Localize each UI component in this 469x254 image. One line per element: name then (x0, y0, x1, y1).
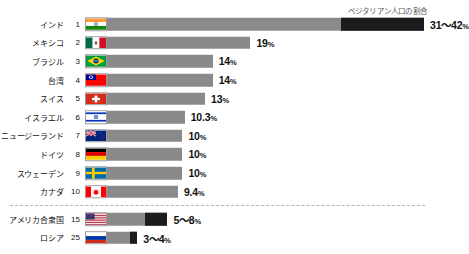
bar-value-number: 13 (211, 93, 222, 105)
country-rank: 8 (66, 150, 80, 159)
chart-row: アメリカ合衆国155〜8% (0, 210, 433, 229)
percent-sign: % (194, 217, 200, 226)
bar-value-label: 10% (188, 130, 206, 142)
country-label: スイス (0, 93, 64, 104)
chart-row: スイス513% (0, 89, 433, 108)
bar-value-number: 10 (188, 148, 199, 160)
bar-track (107, 37, 250, 50)
percent-sign: % (200, 133, 206, 142)
bar-fill (107, 148, 182, 161)
bar-track (107, 111, 185, 124)
country-label: 台湾 (0, 75, 64, 86)
country-label: ドイツ (0, 149, 64, 160)
country-rank: 7 (66, 131, 80, 140)
percent-sign: % (222, 96, 228, 105)
bar-range-highlight (145, 213, 168, 226)
bar-value-number: 14 (219, 74, 230, 86)
percent-sign: % (200, 170, 206, 179)
bar-value-label: 9.4% (184, 186, 204, 198)
percent-sign: % (230, 77, 236, 86)
country-label: メキシコ (0, 37, 64, 48)
chart-row: 台湾414% (0, 71, 433, 90)
flag-brazil-icon (85, 55, 107, 69)
flag-israel-icon (85, 111, 107, 125)
bar-fill (107, 92, 205, 105)
flag-india-icon (85, 18, 107, 32)
chart-row: ニュージーランド710% (0, 127, 433, 146)
country-rank: 1 (66, 20, 80, 29)
flag-switzerland-icon (85, 92, 107, 106)
chart-row: ドイツ810% (0, 145, 433, 164)
bar-value-label: 10.3% (191, 111, 217, 123)
bar-value-label: 14% (219, 55, 237, 67)
country-rank: 2 (66, 38, 80, 47)
country-rank: 9 (66, 169, 80, 178)
bar-value-number: 10.3 (191, 111, 211, 123)
percent-sign: % (164, 235, 170, 244)
bar-value-label: 3〜4% (143, 230, 171, 245)
bar-value-number: 9.4 (184, 186, 198, 198)
bar-fill (107, 130, 182, 143)
chart-row: ロシア253〜4% (0, 229, 433, 248)
bar-track (107, 167, 182, 180)
country-label: カナダ (0, 186, 64, 197)
country-label: インド (0, 19, 64, 30)
country-label: スウェーデン (0, 168, 64, 179)
flag-sweden-icon (85, 166, 107, 180)
bar-value-label: 14% (219, 74, 237, 86)
country-rank: 6 (66, 113, 80, 122)
bar-value-number: 10 (188, 167, 199, 179)
bar-value-label: 31〜42% (430, 17, 469, 32)
bar-value-label: 19% (256, 37, 274, 49)
bar-value-number: 10 (188, 130, 199, 142)
bar-track (107, 185, 178, 198)
bar-value-number: 5〜8 (173, 214, 194, 226)
percent-sign: % (198, 189, 204, 198)
bar-value-number: 19 (256, 37, 267, 49)
country-rank: 25 (66, 233, 80, 242)
flag-canada-icon (85, 185, 107, 199)
bar-fill (107, 167, 182, 180)
chart-row: ブラジル314% (0, 52, 433, 71)
country-rank: 10 (66, 187, 80, 196)
bar-track (107, 18, 424, 31)
percent-sign: % (200, 151, 206, 160)
section-divider (10, 205, 425, 206)
flag-mexico-icon (85, 36, 107, 50)
country-rank: 4 (66, 76, 80, 85)
country-label: アメリカ合衆国 (0, 214, 64, 225)
bar-value-label: 10% (188, 148, 206, 160)
bar-track (107, 74, 213, 87)
bar-track (107, 55, 213, 68)
bar-track (107, 232, 137, 245)
flag-russia-icon (85, 231, 107, 245)
flag-taiwan-icon (85, 73, 107, 87)
bar-value-label: 10% (188, 167, 206, 179)
chart-row: メキシコ219% (0, 34, 433, 53)
flag-germany-icon (85, 148, 107, 162)
bar-range-highlight (130, 232, 138, 245)
chart-rows: インド131〜42%メキシコ219%ブラジル314%台湾414%スイス513%イ… (0, 15, 433, 247)
bar-fill (107, 37, 250, 50)
percent-sign: % (230, 58, 236, 67)
chart-row: スウェーデン910% (0, 164, 433, 183)
country-label: イスラエル (0, 112, 64, 123)
flag-new-zealand-icon (85, 129, 107, 143)
flag-usa-icon (85, 212, 107, 226)
bar-range-highlight (341, 18, 424, 31)
percent-sign: % (210, 114, 216, 123)
chart-row: イスラエル610.3% (0, 108, 433, 127)
bar-fill (107, 55, 213, 68)
bar-fill (107, 185, 178, 198)
country-rank: 3 (66, 57, 80, 66)
bar-value-label: 5〜8% (173, 212, 201, 227)
percent-sign: % (462, 22, 468, 31)
chart-row: カナダ109.4% (0, 182, 433, 201)
country-label: ロシア (0, 232, 64, 243)
country-label: ブラジル (0, 56, 64, 67)
country-rank: 5 (66, 94, 80, 103)
percent-sign: % (268, 40, 274, 49)
bar-fill (107, 74, 213, 87)
chart-row: インド131〜42% (0, 15, 433, 34)
bar-value-number: 31〜42 (430, 19, 462, 31)
